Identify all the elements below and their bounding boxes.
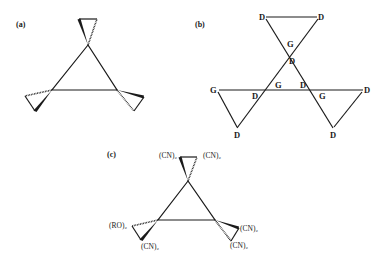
atom-g-left: G	[210, 85, 217, 95]
atom-d-center-right: D	[300, 80, 306, 90]
central-triangle-a	[52, 45, 117, 90]
atom-d-top-inner: D	[289, 56, 295, 66]
atom-d-bottom-left: D	[234, 130, 240, 140]
atom-d-top-right: D	[318, 12, 324, 22]
substituent-top-right: (CN)₂	[203, 151, 221, 160]
ring-edge	[25, 96, 35, 111]
bond	[218, 92, 237, 127]
bond	[237, 19, 318, 128]
bond	[334, 92, 362, 127]
panel-label-a: (a)	[16, 20, 26, 29]
wedge-bond	[78, 19, 89, 46]
atom-d-top-left: D	[259, 12, 265, 22]
wedge-bond	[179, 157, 189, 182]
figure-canvas: (a) (b) D D G D G D G D G	[0, 0, 386, 263]
atom-g-right-inner: G	[319, 91, 326, 101]
wedge-bond	[215, 220, 239, 230]
substituent-left-lower: (CN)₂	[141, 242, 159, 251]
bond	[266, 19, 333, 128]
substituent-top-left: (CN)₂	[159, 151, 177, 160]
panel-label-b: (b)	[195, 20, 205, 29]
ring-edge	[134, 97, 144, 111]
atom-g-center-left: G	[275, 80, 282, 90]
ring-edge	[132, 226, 141, 240]
hash-bond	[88, 19, 97, 45]
hash-bond	[188, 157, 197, 181]
atom-d-right: D	[364, 85, 370, 95]
panel-a: (a)	[16, 19, 144, 113]
atom-g-top-inner: G	[287, 39, 294, 49]
atom-d-bottom-right: D	[330, 130, 336, 140]
substituent-right-upper: (CN)₂	[240, 224, 258, 233]
substituent-right-lower: (CN)₂	[230, 241, 248, 250]
panel-label-c: (c)	[107, 150, 116, 159]
panel-c: (c) (CN)₂ (CN)₂ (RO)₂ (CN)₂ (CN)₂ (CN)₂	[107, 150, 258, 251]
panel-b: (b) D D G D G D G D G D D D	[195, 12, 370, 140]
wedge-bond	[117, 90, 144, 99]
ring-edge	[231, 228, 239, 241]
central-triangle-c	[158, 181, 215, 220]
substituent-left-upper: (RO)₂	[109, 221, 127, 230]
atom-d-left-inner: D	[252, 91, 258, 101]
